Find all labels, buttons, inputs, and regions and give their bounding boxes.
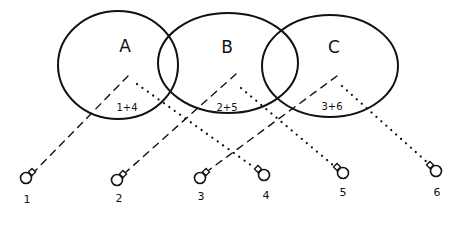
bulb-nodes xyxy=(21,161,442,185)
bulb-icon-2 xyxy=(112,170,127,185)
node-label-1: 1 xyxy=(24,193,31,206)
sum-label-c: 3+6 xyxy=(321,101,342,112)
sum-label-b: 2+5 xyxy=(216,102,237,113)
node-label-4: 4 xyxy=(263,189,270,202)
bulb-icon-6 xyxy=(426,161,441,176)
node-label-3: 3 xyxy=(198,190,205,203)
set-label-a: A xyxy=(119,36,131,56)
set-label-b: B xyxy=(221,37,233,57)
connection-a-to-4 xyxy=(137,84,255,168)
bulb-icon-4 xyxy=(254,165,269,180)
bulb-icon-5 xyxy=(333,163,348,178)
bulb-icon-1 xyxy=(21,168,36,183)
connection-c-to-6 xyxy=(342,86,428,163)
connection-b-to-5 xyxy=(241,88,333,165)
set-label-c: C xyxy=(328,37,340,57)
node-label-5: 5 xyxy=(340,186,347,199)
bulb-icon-3 xyxy=(195,168,210,183)
node-label-2: 2 xyxy=(116,192,123,205)
node-label-6: 6 xyxy=(434,186,441,199)
connection-a-to-1 xyxy=(34,76,128,172)
sum-label-a: 1+4 xyxy=(116,102,137,113)
connection-c-to-3 xyxy=(209,76,337,170)
connection-lines xyxy=(34,74,428,172)
